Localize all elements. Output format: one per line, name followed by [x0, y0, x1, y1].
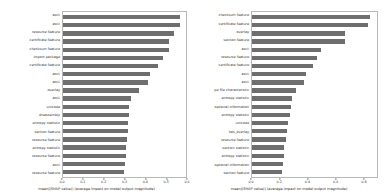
bar — [252, 48, 321, 52]
bar-row — [63, 168, 186, 176]
bar-row — [252, 86, 377, 94]
y-axis-tick-label: resource feature — [7, 170, 62, 178]
y-axis-tick-label: resource feature — [7, 153, 62, 161]
x-axis-tick: 0.2 — [101, 178, 106, 184]
x-axis-tick: 0.0 — [59, 178, 64, 184]
bar-row — [252, 29, 377, 37]
bar — [63, 64, 158, 68]
y-axis-tick-label: overlay — [199, 29, 251, 37]
tick-text: 0.4 — [305, 180, 310, 184]
y-axis-tick-label: ascii — [199, 78, 251, 86]
x-axis-tick: 0.5 — [164, 178, 169, 184]
bar — [252, 105, 291, 109]
bar-row — [63, 29, 186, 37]
y-axis-tick-label: entropy statistic — [199, 153, 251, 161]
bar-series-left — [63, 12, 186, 177]
bar-row — [63, 86, 186, 94]
bar-row — [63, 37, 186, 45]
x-axis-tick: 0.8 — [361, 178, 366, 184]
x-axis-right: 0.00.20.40.60.8 — [193, 178, 385, 187]
bar — [63, 48, 169, 52]
bar-row — [63, 78, 186, 86]
y-axis-tick-label: certificate feature — [199, 20, 251, 28]
bar-row — [252, 103, 377, 111]
bar — [252, 96, 292, 100]
y-axis-tick-label: resource feature — [7, 136, 62, 144]
x-axis-ticks-right: 0.00.20.40.60.8 — [251, 178, 378, 187]
y-axis-tick-label: certificate feature — [199, 62, 251, 70]
y-axis-tick-label: ascii — [199, 45, 251, 53]
bar-row — [252, 135, 377, 143]
x-axis-label-right: mean(|SHAP value|) (average impact on mo… — [193, 187, 385, 191]
tick-text: 0.6 — [333, 180, 338, 184]
bar — [63, 80, 148, 84]
bar-row — [63, 111, 186, 119]
y-axis-tick-label: section feature — [199, 37, 251, 45]
bar — [252, 145, 284, 149]
y-axis-tick-label: entropy statistic — [199, 112, 251, 120]
y-axis-tick-label: certificate feature — [7, 62, 62, 70]
tick-text: 0.6 — [184, 180, 189, 184]
bar-row — [63, 13, 186, 21]
bar-row — [63, 160, 186, 168]
bar-row — [252, 160, 377, 168]
x-axis-tick: 0.4 — [143, 178, 148, 184]
bar — [63, 39, 169, 43]
bar-row — [252, 168, 377, 176]
bar-row — [252, 13, 377, 21]
bar-row — [63, 127, 186, 135]
bar-row — [63, 95, 186, 103]
bar-row — [252, 62, 377, 70]
shap-bar-chart-figure: asciiasciiresource featurecertificate fe… — [0, 0, 385, 191]
y-axis-tick-label: ascii — [7, 78, 62, 86]
y-axis-tick-label: certificate feature — [7, 37, 62, 45]
bar — [252, 162, 283, 166]
y-axis-tick-label: entropy statistic — [7, 120, 62, 128]
y-axis-tick-label: optional information — [199, 161, 251, 169]
tick-text: 0.3 — [122, 180, 127, 184]
y-axis-tick-label: checksum feature — [199, 12, 251, 20]
bar — [252, 121, 288, 125]
bar-row — [63, 70, 186, 78]
y-axis-tick-label: import package — [7, 53, 62, 61]
bar-row — [252, 95, 377, 103]
tick-text: 0.0 — [248, 180, 253, 184]
bar — [63, 15, 180, 19]
y-axis-tick-label: resource feature — [199, 136, 251, 144]
plot-area-right: checksum featurecertificate featureoverl… — [193, 0, 385, 178]
x-axis-tick: 0.4 — [305, 178, 310, 184]
tick-text: 0.8 — [361, 180, 366, 184]
bar — [63, 113, 129, 117]
y-axis-tick-label: section statistic — [199, 145, 251, 153]
x-axis-tick: 0.6 — [333, 178, 338, 184]
y-axis-tick-label: resource feature — [199, 53, 251, 61]
bar — [63, 162, 125, 166]
shap-panel-left: asciiasciiresource featurecertificate fe… — [0, 0, 193, 191]
x-axis-tick: 0.0 — [248, 178, 253, 184]
bar — [63, 96, 131, 100]
bar — [252, 154, 284, 158]
y-axis-tick-label: entropy statistic — [7, 145, 62, 153]
bar-series-right — [252, 12, 377, 177]
x-axis-tick: 0.1 — [80, 178, 85, 184]
x-axis-left: 0.00.10.20.30.40.50.6 — [0, 178, 193, 187]
bar-row — [63, 144, 186, 152]
bar-row — [252, 21, 377, 29]
bar — [252, 72, 306, 76]
bar-row — [252, 37, 377, 45]
bar — [252, 113, 290, 117]
bar-row — [252, 144, 377, 152]
bar — [252, 88, 296, 92]
x-axis-label-left: mean(|SHAP value|) (average impact on mo… — [0, 187, 193, 191]
y-axis-tick-label: ascii — [7, 95, 62, 103]
y-axis-tick-label: optional information — [199, 103, 251, 111]
axes-box-left — [62, 11, 187, 178]
bar-row — [63, 21, 186, 29]
y-axis-tick-label: ascii — [7, 12, 62, 20]
tick-text: 0.5 — [164, 180, 169, 184]
tick-text: 0.1 — [80, 180, 85, 184]
y-axis-tick-label: resource feature — [7, 29, 62, 37]
x-axis-tick: 0.6 — [184, 178, 189, 184]
y-axis-tick-label: disassembly — [7, 112, 62, 120]
bar-row — [63, 46, 186, 54]
